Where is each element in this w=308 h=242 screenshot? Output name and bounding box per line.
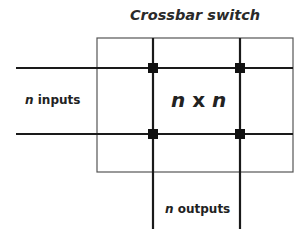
inputs-var: n [25, 93, 34, 107]
outputs-var: n [165, 202, 174, 216]
junction-node [148, 63, 158, 73]
inputs-text: inputs [34, 93, 81, 107]
crossbar-diagram: Crossbar switch n inputs n x n n outputs [0, 0, 308, 242]
outputs-label: n outputs [165, 202, 230, 216]
center-label: n x n [171, 88, 226, 112]
diagram-title: Crossbar switch [0, 7, 308, 23]
inputs-label: n inputs [25, 93, 80, 107]
junction-node [148, 129, 158, 139]
junction-node [235, 129, 245, 139]
crossbar-graphic [0, 0, 308, 242]
center-var1: n [171, 88, 185, 112]
outputs-text: outputs [174, 202, 231, 216]
junction-node [235, 63, 245, 73]
center-var2: n [212, 88, 226, 112]
center-op: x [185, 88, 212, 112]
